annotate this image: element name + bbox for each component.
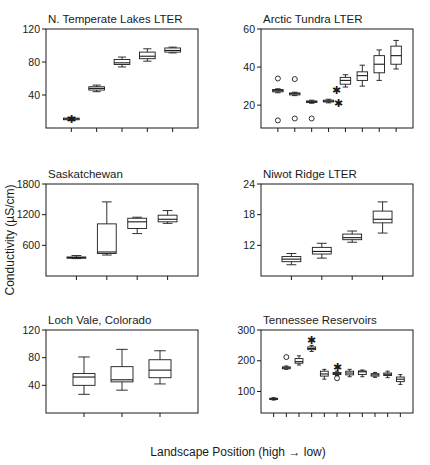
y-tick-label-5-0: 100 [237,385,255,397]
y-tick-label-1-2: 60 [243,23,255,35]
y-tick-label-3-1: 18 [243,208,255,220]
plot-frame-2 [46,184,198,276]
y-tick-label-4-1: 80 [28,351,40,363]
significance-asterisk-high: ✱ [332,84,341,96]
significance-asterisk-low: ✱ [334,97,343,109]
figure-boxplot-grid: N. Temperate Lakes LTER4080120✱Arctic Tu… [0,0,430,465]
boxplot-5-1 [270,398,278,400]
boxplot-5-4: ✱ [307,334,316,351]
y-tick-label-1-1: 40 [243,61,255,73]
box-iqr [73,374,95,386]
box-iqr [373,211,392,223]
box-iqr [139,52,155,59]
y-tick-label-1-0: 20 [243,99,255,111]
significance-asterisk: ✱ [307,334,316,346]
panel-title-2: Saskatchewan [48,168,123,180]
panel-1: Arctic Tundra LTER204060✱✱ [243,13,413,132]
box-iqr [343,234,362,240]
y-tick-label-0-2: 120 [22,23,40,35]
y-tick-label-5-2: 300 [237,324,255,336]
panel-0: N. Temperate Lakes LTER4080120✱ [22,13,198,132]
y-tick-label-5-1: 200 [237,354,255,366]
box-iqr [128,218,147,228]
significance-asterisk: ✱ [333,361,342,373]
plot-frame-1 [261,29,413,128]
panel-title-5: Tennessee Reservoirs [263,314,377,326]
plot-frame-3 [261,184,413,276]
y-tick-label-3-0: 12 [243,239,255,251]
panel-2: Saskatchewan60012001800 [17,168,198,280]
box-iqr [149,360,171,378]
boxplot-1-4 [323,99,333,103]
box-iqr [312,247,331,254]
x-axis-label: Landscape Position (high → low) [150,445,325,459]
box-iqr [158,215,177,222]
y-tick-label-3-2: 24 [243,178,255,190]
box-iqr [97,224,116,254]
boxplot-0-5 [165,47,181,53]
y-axis-label: Conductivity (µS/cm) [3,185,17,296]
panel-title-1: Arctic Tundra LTER [263,13,363,25]
y-tick-label-2-0: 600 [22,239,40,251]
box-iqr [295,359,303,364]
y-tick-label-0-1: 80 [28,56,40,68]
panel-3: Niwot Ridge LTER121824 [243,168,413,280]
box-iqr [114,60,130,65]
y-tick-label-4-0: 40 [28,379,40,391]
y-tick-label-2-1: 1200 [17,208,41,220]
y-tick-label-0-0: 40 [28,89,40,101]
y-tick-label-4-2: 120 [22,324,40,336]
y-tick-label-2-2: 1800 [17,178,41,190]
figure-canvas: N. Temperate Lakes LTER4080120✱Arctic Tu… [0,0,430,465]
significance-asterisk: ✱ [67,113,76,125]
panel-title-3: Niwot Ridge LTER [263,168,357,180]
panel-title-4: Loch Vale, Colorado [48,314,151,326]
panel-title-0: N. Temperate Lakes LTER [48,13,182,25]
panel-5: Tennessee Reservoirs100200300✱✱ [237,314,413,417]
panel-4: Loch Vale, Colorado4080120 [22,314,198,417]
